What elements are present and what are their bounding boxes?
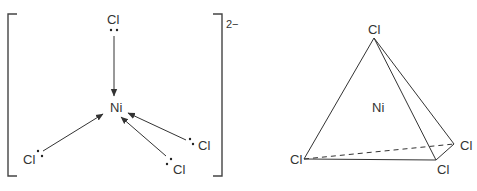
ligand-bottom-label: Cl xyxy=(173,162,185,177)
vertex-apex-label: Cl xyxy=(368,22,380,37)
lone-pair-dot xyxy=(41,155,43,157)
tetrahedron: Cl Cl Cl Cl Ni xyxy=(290,22,472,177)
tetrahedron-center-ni: Ni xyxy=(372,100,384,115)
ligand-lower-left-label: Cl xyxy=(23,152,35,167)
lone-pair-dot xyxy=(116,29,118,31)
bond-arrow-bottom xyxy=(121,117,166,156)
lone-pair-dot xyxy=(189,138,191,140)
center-atom-ni: Ni xyxy=(110,100,122,115)
edge-front-right-back-right xyxy=(436,144,454,160)
bond-arrow-lower-right xyxy=(128,113,186,140)
lone-pair-dot xyxy=(170,158,172,160)
lone-pair-dot xyxy=(192,143,194,145)
edge-left-front-right xyxy=(304,159,436,160)
ligand-top-label: Cl xyxy=(107,12,119,27)
right-bracket xyxy=(213,14,222,176)
bond-arrow-lower-left xyxy=(43,114,103,151)
charge-label: 2− xyxy=(226,18,239,30)
vertex-front-right-label: Cl xyxy=(437,162,449,177)
edge-apex-front-right xyxy=(374,38,436,160)
lewis-structure: 2− Cl Ni Cl Cl Cl xyxy=(8,12,239,177)
vertex-back-right-label: Cl xyxy=(460,138,472,153)
diagram-canvas: 2− Cl Ni Cl Cl Cl Cl Cl Cl C xyxy=(0,0,477,191)
ligand-lower-right-label: Cl xyxy=(198,138,210,153)
lone-pair-dot xyxy=(110,29,112,31)
edge-apex-left xyxy=(304,38,374,159)
left-bracket xyxy=(8,14,17,176)
lone-pair-dot xyxy=(166,163,168,165)
lone-pair-dot xyxy=(37,150,39,152)
edge-apex-back-right xyxy=(374,38,454,144)
vertex-left-label: Cl xyxy=(290,152,302,167)
